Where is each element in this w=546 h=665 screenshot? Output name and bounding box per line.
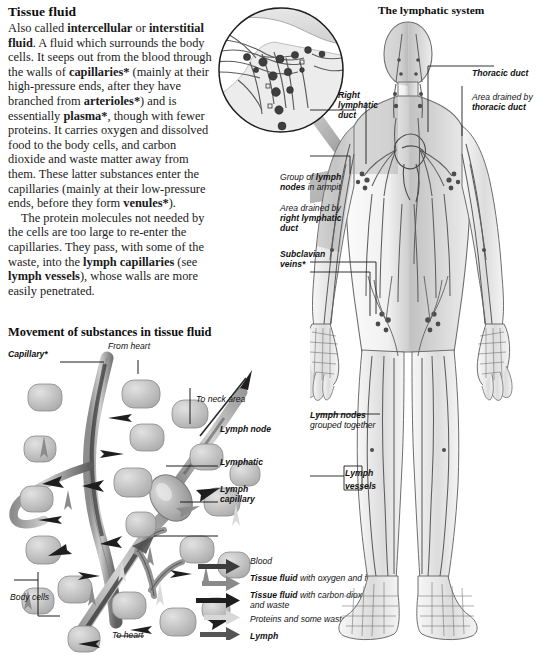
legend-arrow-4: [200, 627, 240, 640]
label-to-heart: To heart: [112, 630, 143, 640]
legend-label-0: Blood: [250, 556, 272, 566]
legend-arrows: [196, 558, 242, 640]
label-lymph-vessels-1: Lymph: [345, 468, 373, 478]
label-lymph-capillary-line2: capillary: [220, 494, 255, 504]
label-right-lymphatic-duct-3: duct: [338, 110, 356, 120]
label-lymph-capillary-line1: Lymph: [220, 484, 248, 494]
article-text-column: Tissue fluid Also called intercellular o…: [8, 4, 214, 298]
label-armpit-nodes-2: nodes in armpit: [280, 182, 341, 192]
label-area-drained-right-1: Area drained by: [280, 203, 341, 213]
label-to-neck-area: To neck area: [196, 394, 245, 404]
label-lymph-node: Lymph node: [220, 424, 271, 434]
label-armpit-nodes-1: Group of lymph: [280, 172, 341, 182]
page-title: Tissue fluid: [8, 4, 214, 20]
label-area-drained-thoracic-2: thoracic duct: [472, 102, 526, 112]
label-area-drained-right-2: right lymphatic: [280, 213, 342, 223]
label-lymph-nodes-1: Lymph nodes: [310, 410, 366, 420]
label-body-cells: Body cells: [10, 592, 49, 602]
label-from-heart: From heart: [108, 341, 150, 351]
legend-arrow-1: [202, 576, 240, 591]
tissue-diagram-heading: Movement of substances in tissue fluid: [8, 325, 268, 340]
label-subclavian-veins-1: Subclavian: [280, 249, 325, 259]
label-right-lymphatic-duct-2: lymphatic: [338, 100, 378, 110]
label-capillary: Capillary*: [8, 349, 48, 359]
label-lymph-nodes-2: grouped together: [310, 420, 375, 430]
label-lymphatic: Lymphatic: [220, 457, 263, 467]
label-lymph-vessels-2: vessels: [345, 481, 376, 491]
legend-label-4: Lymph: [250, 631, 278, 641]
label-thoracic-duct: Thoracic duct: [472, 68, 528, 78]
label-right-lymphatic-duct-1: Right: [338, 90, 360, 100]
label-area-drained-thoracic-1: Area drained by: [472, 92, 533, 102]
extremity-mesh: [310, 328, 506, 636]
page-root: Tissue fluid Also called intercellular o…: [0, 0, 546, 665]
legend-arrow-0: [198, 559, 240, 574]
legend-arrow-2: [196, 593, 240, 608]
article-paragraph-1: Also called intercellular or interstitia…: [8, 21, 214, 211]
article-paragraph-2: The protein molecules not needed by the …: [8, 211, 214, 299]
label-area-drained-right-3: duct: [280, 223, 298, 233]
legend-arrow-3: [204, 610, 240, 625]
label-subclavian-veins-2: veins*: [280, 259, 305, 269]
